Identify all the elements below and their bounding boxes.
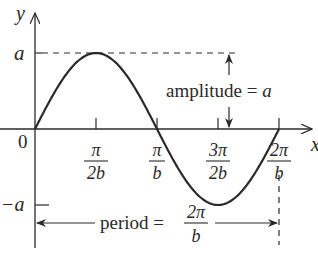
amplitude-label: amplitude = a (166, 80, 272, 101)
period-label: period = (100, 212, 169, 233)
x-tick-labels: π2bπb3π2b2πb (84, 140, 291, 183)
x-tick-label-numerator: 2π (270, 140, 289, 160)
period-fraction-den: b (192, 226, 201, 246)
x-tick-label-denominator: b (153, 163, 162, 183)
x-tick-label-denominator: 2b (87, 163, 105, 183)
x-tick-label-numerator: 3π (208, 140, 228, 160)
x-tick-label-pi-over-2b: π2b (84, 140, 108, 183)
amplitude-label-var: a (262, 80, 272, 101)
x-tick-label-denominator: 2b (209, 163, 227, 183)
amplitude-label-text: amplitude = (166, 80, 262, 101)
origin-label: 0 (18, 131, 28, 152)
sine-diagram: y x 0 a −a π2bπb3π2b2πb amplitude = a pe… (0, 0, 318, 270)
x-tick-label-3pi-over-2b: 3π2b (206, 140, 230, 183)
period-fraction-num: 2π (187, 202, 206, 222)
x-tick-label-numerator: π (152, 140, 162, 160)
x-tick-label-pi-over-b: πb (149, 140, 165, 183)
y-tick-label-neg-a: −a (1, 193, 25, 215)
x-axis-label: x (310, 133, 318, 155)
x-tick-label-numerator: π (91, 140, 101, 160)
y-axis-label: y (14, 2, 25, 25)
x-ticks (96, 118, 279, 129)
y-tick-label-a: a (14, 41, 25, 65)
